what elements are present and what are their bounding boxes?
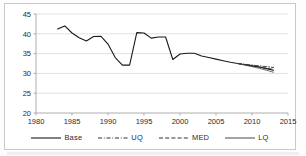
x-tick-label: 2000 <box>172 117 189 126</box>
x-axis-tick-labels: 19801985199019952000200520102015 <box>28 117 297 126</box>
legend-label: LQ <box>258 134 268 142</box>
y-tick-label: 35 <box>23 49 31 58</box>
line-chart: 202530354045 198019851990199520002005201… <box>0 0 306 128</box>
legend-item-base[interactable]: Base <box>31 134 82 142</box>
legend-item-uq[interactable]: UQ <box>98 134 143 142</box>
y-tick-label: 30 <box>23 69 31 78</box>
legend-item-med[interactable]: MED <box>159 134 209 142</box>
chart-figure: 202530354045 198019851990199520002005201… <box>0 0 306 156</box>
x-tick-label: 2010 <box>244 117 261 126</box>
plot-area: 202530354045 198019851990199520002005201… <box>0 0 306 128</box>
x-tick-label: 1985 <box>64 117 81 126</box>
legend-key-med <box>159 134 189 142</box>
legend-label: Base <box>64 134 82 142</box>
legend-label: UQ <box>131 134 143 142</box>
legend-key-lq <box>225 134 255 142</box>
gridlines <box>36 14 288 93</box>
series-lines <box>58 26 274 72</box>
y-tick-label: 45 <box>23 10 31 19</box>
legend-key-uq <box>98 134 128 142</box>
series-line-lq <box>238 64 274 73</box>
y-tick-label: 25 <box>23 89 31 98</box>
x-tick-label: 2015 <box>280 117 297 126</box>
legend-item-lq[interactable]: LQ <box>225 134 268 142</box>
figure-shadow <box>7 152 299 155</box>
y-axis-tick-labels: 202530354045 <box>23 10 31 118</box>
x-tick-label: 1980 <box>28 117 45 126</box>
x-tick-label: 2005 <box>208 117 225 126</box>
x-tick-label: 1990 <box>100 117 117 126</box>
legend-label: MED <box>192 134 209 142</box>
x-tick-label: 1995 <box>136 117 153 126</box>
legend-key-base <box>31 134 61 142</box>
chart-legend: BaseUQMEDLQ <box>4 128 296 148</box>
y-tick-label: 40 <box>23 30 31 39</box>
